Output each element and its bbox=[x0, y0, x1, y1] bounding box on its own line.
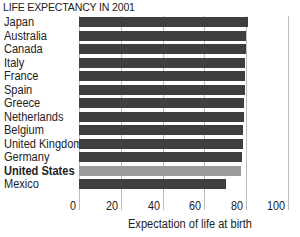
bar bbox=[79, 17, 248, 27]
bar bbox=[79, 98, 244, 108]
category-label: Netherlands bbox=[4, 111, 64, 123]
category-label: Spain bbox=[4, 84, 32, 96]
bar bbox=[79, 166, 241, 176]
bar bbox=[79, 85, 245, 95]
category-label: Australia bbox=[4, 30, 47, 42]
category-label: Greece bbox=[4, 97, 40, 109]
category-label: France bbox=[4, 70, 38, 82]
x-tick-label: 0 bbox=[70, 199, 76, 213]
gridline-100 bbox=[288, 16, 289, 210]
category-label: United States bbox=[4, 165, 75, 177]
category-label: Mexico bbox=[4, 178, 39, 190]
x-tick-label: 20 bbox=[106, 199, 118, 213]
category-label: Germany bbox=[4, 151, 49, 163]
bar bbox=[79, 139, 243, 149]
bar bbox=[79, 44, 246, 54]
category-label: Canada bbox=[4, 43, 43, 55]
x-tick-label: 80 bbox=[231, 199, 243, 213]
x-tick-label: 60 bbox=[189, 199, 201, 213]
bar bbox=[79, 125, 243, 135]
bar bbox=[79, 152, 242, 162]
x-axis-label: Expectation of life at birth bbox=[128, 217, 252, 231]
category-label: Belgium bbox=[4, 124, 44, 136]
bar bbox=[79, 71, 245, 81]
category-label: Italy bbox=[4, 57, 24, 69]
bar bbox=[79, 31, 246, 41]
bar bbox=[79, 112, 244, 122]
chart: LIFE EXPECTANCY IN 2001 JapanAustraliaCa… bbox=[0, 0, 300, 237]
bar bbox=[79, 179, 226, 189]
category-label: United Kingdom bbox=[4, 138, 83, 150]
bar bbox=[79, 58, 245, 68]
gridline-80 bbox=[246, 16, 247, 210]
category-label: Japan bbox=[4, 16, 34, 28]
chart-title: LIFE EXPECTANCY IN 2001 bbox=[3, 1, 135, 13]
x-tick-label: 100 bbox=[267, 199, 285, 213]
x-tick-label: 40 bbox=[148, 199, 160, 213]
